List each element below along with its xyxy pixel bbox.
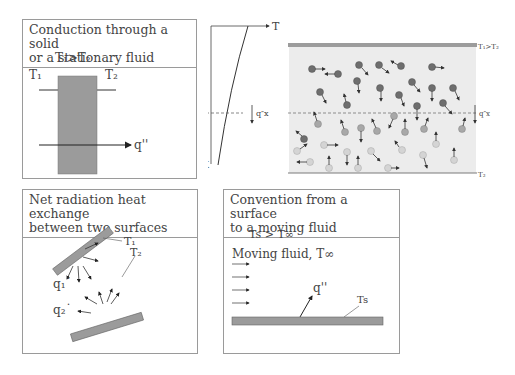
flux-left-label: q″x <box>256 109 269 118</box>
q2-label: q₂˙ <box>53 303 72 317</box>
top-temp-label: T₁>T₂ <box>478 43 499 51</box>
conduction-diagram: T₁>T₂ T₁ T₂ q'' <box>23 51 198 179</box>
flux-label: q'' <box>313 281 327 295</box>
axis-x-label: X <box>208 159 210 170</box>
condition-label: Ts > T∞ <box>249 228 294 241</box>
heat-flux-arrow <box>300 296 312 317</box>
convection-panel: Convention from a surface to a moving fl… <box>223 189 400 354</box>
molecular-diagram: T Xo q″x X T₁>T₂ T₂ q″x <box>208 15 515 180</box>
surface-1 <box>53 227 114 276</box>
condition-label: T₁>T₂ <box>55 51 91 65</box>
q1-label: q₁˙ <box>53 277 72 291</box>
flux-label: q'' <box>134 138 148 152</box>
temperature-profile <box>218 26 248 165</box>
t2-label: T₂ <box>130 246 142 259</box>
radiation-panel: Net radiation heat exchange between two … <box>22 189 198 354</box>
surface-2 <box>70 312 143 341</box>
moving-fluid-label: Moving fluid, T∞ <box>232 247 334 261</box>
axis-t-label: T <box>272 20 280 33</box>
heated-surface <box>232 317 383 325</box>
t2-label: T₂ <box>105 68 118 82</box>
solid-slab <box>58 76 97 174</box>
flux-right-label: q″x <box>479 110 490 118</box>
ts-label: Ts <box>357 294 368 305</box>
conduction-panel: Conduction through a solid or a stationa… <box>22 19 197 179</box>
t1-label: T₁ <box>29 68 42 82</box>
radiation-diagram: T₁ T₂ q₁˙ q₂˙ <box>23 222 199 353</box>
bottom-temp-label: T₂ <box>478 171 486 179</box>
convection-diagram: Ts > T∞ Moving fluid, T∞ q'' Ts <box>224 222 401 353</box>
